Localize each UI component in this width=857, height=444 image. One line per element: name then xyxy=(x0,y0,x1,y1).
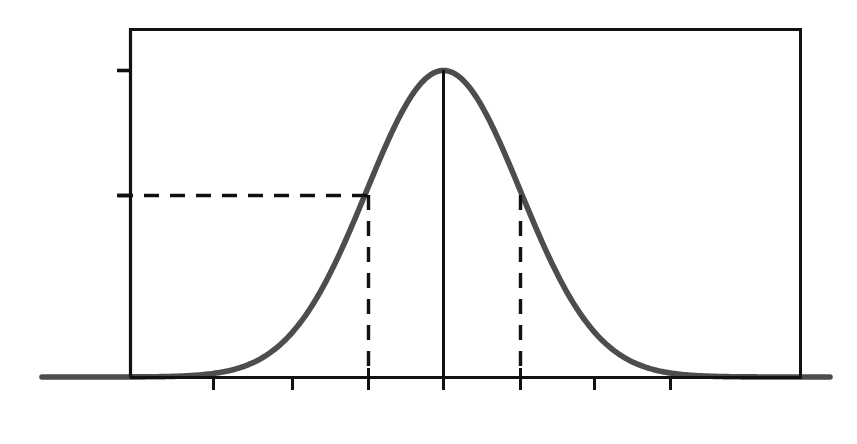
chart-render xyxy=(0,0,857,444)
gaussian-distribution-figure: Wahrscheinlichkeitsdichte Gmax Gmax √e μ… xyxy=(0,0,857,444)
